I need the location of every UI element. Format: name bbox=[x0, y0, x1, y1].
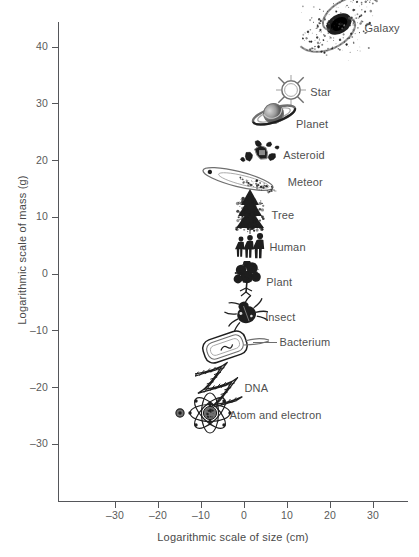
x-axis-tick bbox=[244, 501, 245, 508]
x-axis-tick-label: –20 bbox=[141, 509, 175, 521]
x-axis-tick bbox=[330, 501, 331, 508]
data-point-label: Human bbox=[269, 241, 305, 253]
y-axis-tick-label: 40 bbox=[18, 40, 48, 52]
x-axis-tick bbox=[373, 501, 374, 508]
x-axis-tick bbox=[287, 501, 288, 508]
electron-icon bbox=[175, 408, 185, 418]
data-point-label: Tree bbox=[271, 209, 294, 221]
data-point-label: Galaxy bbox=[365, 22, 400, 34]
y-axis-tick bbox=[52, 47, 59, 48]
x-axis-tick bbox=[201, 501, 202, 508]
y-axis-tick bbox=[52, 330, 59, 331]
planet-icon bbox=[250, 98, 298, 132]
y-axis-tick bbox=[52, 103, 59, 104]
y-axis-tick bbox=[52, 217, 59, 218]
y-axis-tick-label: –30 bbox=[18, 437, 48, 449]
x-axis-tick-label: 20 bbox=[313, 509, 347, 521]
human-icon bbox=[233, 230, 267, 262]
y-axis-title: Logarithmic scale of mass (g) bbox=[16, 100, 28, 400]
x-axis-tick-label: –30 bbox=[98, 509, 132, 521]
x-axis-line bbox=[58, 501, 408, 502]
tree-icon bbox=[229, 188, 271, 236]
x-axis-tick bbox=[158, 501, 159, 508]
data-point-label: Plant bbox=[266, 276, 292, 288]
label-leader-line bbox=[253, 342, 277, 343]
y-axis-tick bbox=[52, 387, 59, 388]
x-axis-tick bbox=[115, 501, 116, 508]
plant-icon bbox=[232, 261, 264, 299]
chart-figure: –30–20–1001020304050–30–20–100102030 Gal… bbox=[0, 0, 419, 557]
x-axis-tick-label: 0 bbox=[227, 509, 261, 521]
asteroid-icon bbox=[238, 138, 284, 165]
data-point-label: Planet bbox=[296, 118, 328, 130]
y-axis-tick bbox=[52, 444, 59, 445]
y-axis-tick bbox=[52, 160, 59, 161]
x-axis-tick-label: 30 bbox=[356, 509, 390, 521]
x-axis-tick-label: 10 bbox=[270, 509, 304, 521]
data-point-label: Asteroid bbox=[283, 149, 325, 161]
data-point-label: Insect bbox=[265, 311, 295, 323]
y-axis-tick bbox=[52, 274, 59, 275]
data-point-label: Star bbox=[310, 86, 331, 98]
data-point-label: DNA bbox=[245, 382, 269, 394]
data-point-label: Meteor bbox=[288, 176, 323, 188]
data-point-label: Atom and electron bbox=[230, 409, 322, 421]
x-axis-title: Logarithmic scale of size (cm) bbox=[58, 531, 408, 543]
y-axis-line bbox=[58, 22, 59, 502]
data-point-label: Bacterium bbox=[279, 336, 330, 348]
atom-icon bbox=[187, 391, 233, 435]
x-axis-tick-label: –10 bbox=[184, 509, 218, 521]
